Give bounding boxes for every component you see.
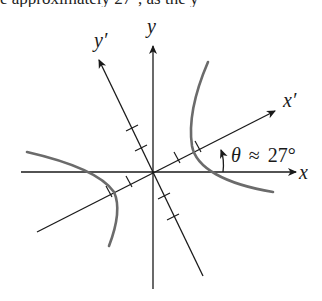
y-axis-label: y	[145, 15, 156, 38]
x-prime-axis-label: x′	[282, 89, 297, 111]
hyperbola-left-branch	[27, 152, 117, 246]
angle-value: 27°	[268, 144, 296, 166]
y-prime-axis-label: y′	[92, 29, 108, 52]
angle-arc	[221, 150, 224, 172]
angle-annotation: θ ≈ 27°	[231, 144, 296, 166]
approx-symbol: ≈	[249, 144, 260, 166]
rotated-axes-diagram: y y′ x′ x θ ≈ 27°	[0, 0, 322, 301]
theta-symbol: θ	[231, 144, 241, 166]
x-axis-label: x	[298, 161, 308, 183]
y-prime-axis	[99, 60, 203, 276]
